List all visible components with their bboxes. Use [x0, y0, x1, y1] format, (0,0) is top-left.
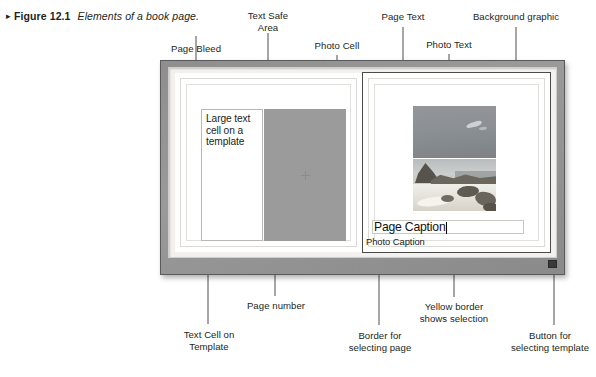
text-caret — [446, 222, 447, 234]
photo-highlight-secondary — [479, 126, 487, 130]
figure-caption: ▸Figure 12.1Elements of a book page. — [6, 10, 199, 24]
right-page[interactable]: Photo Caption — [363, 73, 550, 252]
photo-top[interactable] — [413, 106, 496, 158]
callout-text-safe-area: Text Safe Area — [234, 10, 302, 33]
template-select-button[interactable] — [548, 260, 557, 268]
callout-page-text: Page Text — [368, 11, 438, 23]
figure-number: Figure 12.1 — [14, 10, 71, 22]
text-cell-content: Large text cell on a template — [206, 113, 259, 148]
page-selection-border[interactable]: Large text cell on a template — [160, 60, 565, 275]
figure-page: ▸Figure 12.1Elements of a book page. — [0, 0, 596, 377]
callout-text-cell-on-template: Text Cell on Template — [170, 329, 248, 352]
page-number-mark: · — [359, 262, 361, 268]
workspace-well: Large text cell on a template — [168, 67, 557, 258]
figure-description: Elements of a book page. — [78, 10, 199, 22]
callout-photo-cell: Photo Cell — [300, 40, 374, 52]
photo-cell[interactable] — [264, 109, 346, 241]
photo-caption[interactable]: Photo Caption — [366, 237, 425, 247]
photo-bottom[interactable] — [413, 159, 496, 211]
empty-photo-cell-crosshair-icon — [301, 171, 310, 180]
left-page[interactable]: Large text cell on a template — [175, 73, 363, 252]
callout-page-bleed: Page Bleed — [158, 43, 234, 55]
callout-page-number: Page number — [238, 300, 314, 312]
callout-photo-text: Photo Text — [412, 39, 486, 51]
callout-button-for-selecting-template: Button for selecting template — [503, 330, 596, 353]
photo-rock — [483, 203, 496, 211]
caption-triangle-icon: ▸ — [6, 10, 11, 23]
text-cell[interactable]: Large text cell on a template — [201, 109, 263, 241]
photo-rock — [441, 195, 454, 202]
callout-background-graphic: Background graphic — [458, 11, 574, 23]
book-spread-artwork: Large text cell on a template — [160, 60, 565, 275]
page-caption-field[interactable]: Page Caption — [372, 220, 524, 234]
callout-border-for-selecting-page: Border for selecting page — [340, 330, 420, 353]
callout-yellow-border-shows-selection: Yellow border shows selection — [413, 301, 495, 324]
page-spread: Large text cell on a template — [175, 73, 550, 252]
page-caption-text: Page Caption — [374, 220, 445, 235]
